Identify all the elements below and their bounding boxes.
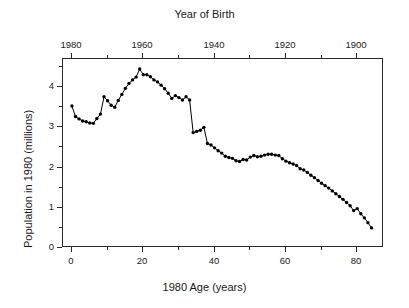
data-point-age-52: [256, 155, 259, 158]
data-point-age-0: [70, 104, 73, 107]
data-point-age-81: [359, 212, 362, 215]
data-point-age-53: [259, 155, 262, 158]
plot-area: [62, 58, 383, 247]
data-point-age-6: [92, 122, 95, 125]
data-point-age-68: [313, 176, 316, 179]
data-point-age-14: [120, 93, 123, 96]
xtick-label-80: 80: [336, 255, 376, 266]
data-point-age-59: [281, 157, 284, 160]
data-point-age-25: [159, 83, 162, 86]
data-point-age-79: [352, 209, 355, 212]
data-point-age-37: [202, 126, 205, 129]
data-point-age-40: [213, 146, 216, 149]
data-point-age-46: [234, 159, 237, 162]
top-xtick-label-1980: 1980: [49, 39, 93, 50]
data-point-age-10: [106, 99, 109, 102]
data-point-age-78: [348, 204, 351, 207]
data-point-age-44: [227, 156, 230, 159]
data-point-age-66: [306, 171, 309, 174]
data-point-age-76: [341, 198, 344, 201]
data-point-age-28: [170, 97, 173, 100]
data-point-age-50: [249, 155, 252, 158]
data-point-age-7: [95, 117, 98, 120]
data-point-age-42: [220, 151, 223, 154]
ytick-label-3: 3: [32, 120, 54, 131]
data-point-age-64: [298, 167, 301, 170]
data-point-age-41: [216, 149, 219, 152]
data-point-age-58: [277, 154, 280, 157]
data-point-age-34: [191, 131, 194, 134]
data-point-age-36: [199, 128, 202, 131]
data-point-age-69: [316, 179, 319, 182]
data-point-age-70: [320, 182, 323, 185]
data-point-age-67: [309, 174, 312, 177]
data-point-age-27: [167, 91, 170, 94]
data-point-age-30: [177, 96, 180, 99]
data-point-age-84: [370, 226, 373, 229]
data-point-age-32: [184, 95, 187, 98]
xtick-label-0: 0: [51, 255, 91, 266]
data-series: [63, 59, 384, 248]
data-point-age-17: [131, 78, 134, 81]
data-point-age-57: [274, 153, 277, 156]
data-point-age-65: [302, 168, 305, 171]
chart-figure: Year of Birth Population in 1980 (millio…: [0, 0, 409, 308]
data-point-age-51: [252, 154, 255, 157]
data-point-age-4: [84, 120, 87, 123]
ytick-label-1: 1: [32, 201, 54, 212]
data-point-age-16: [127, 82, 130, 85]
data-point-age-26: [163, 87, 166, 90]
xtick-label-40: 40: [194, 255, 234, 266]
ytick-label-0: 0: [32, 241, 54, 252]
data-point-age-60: [284, 159, 287, 162]
data-point-age-82: [363, 216, 366, 219]
data-point-age-39: [209, 143, 212, 146]
data-point-age-2: [77, 117, 80, 120]
data-point-age-33: [188, 98, 191, 101]
series-line: [72, 69, 372, 228]
data-point-age-75: [338, 195, 341, 198]
data-point-age-35: [195, 130, 198, 133]
data-point-age-38: [206, 142, 209, 145]
data-point-age-45: [231, 157, 234, 160]
data-point-age-5: [88, 121, 91, 124]
data-point-age-9: [102, 95, 105, 98]
data-point-age-24: [156, 80, 159, 83]
data-point-age-71: [323, 184, 326, 187]
top-xtick-label-1960: 1960: [120, 39, 164, 50]
data-point-age-77: [345, 201, 348, 204]
data-point-age-72: [327, 186, 330, 189]
data-point-age-47: [238, 160, 241, 163]
data-point-age-56: [270, 153, 273, 156]
data-point-age-22: [149, 75, 152, 78]
data-point-age-54: [263, 153, 266, 156]
data-point-age-12: [113, 106, 116, 109]
data-point-age-20: [142, 73, 145, 76]
data-point-age-18: [134, 75, 137, 78]
data-point-age-13: [117, 99, 120, 102]
data-point-age-8: [99, 112, 102, 115]
top-axis-title: Year of Birth: [0, 8, 409, 20]
data-point-age-3: [81, 119, 84, 122]
data-point-age-49: [245, 158, 248, 161]
top-xtick-label-1920: 1920: [263, 39, 307, 50]
data-point-age-61: [288, 161, 291, 164]
data-point-age-73: [331, 189, 334, 192]
xtick-label-60: 60: [265, 255, 305, 266]
data-point-age-74: [334, 192, 337, 195]
ytick-major-0: [57, 247, 62, 248]
data-point-age-80: [356, 207, 359, 210]
data-point-age-1: [74, 115, 77, 118]
data-point-age-23: [152, 78, 155, 81]
data-point-age-43: [224, 155, 227, 158]
ytick-label-4: 4: [32, 80, 54, 91]
xtick-label-20: 20: [122, 255, 162, 266]
data-point-age-62: [291, 162, 294, 165]
data-point-age-48: [241, 158, 244, 161]
data-point-age-29: [174, 94, 177, 97]
data-point-age-31: [181, 98, 184, 101]
data-point-age-83: [366, 221, 369, 224]
x-axis-title: 1980 Age (years): [0, 281, 409, 293]
ytick-label-2: 2: [32, 161, 54, 172]
data-point-age-55: [266, 153, 269, 156]
